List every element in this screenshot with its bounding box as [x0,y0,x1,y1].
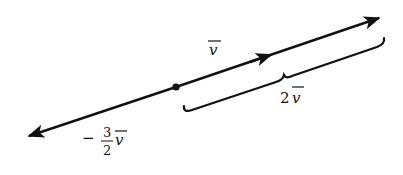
svg-text:2: 2 [280,89,290,107]
origin-point [172,83,179,90]
label-neg-three-halves-v: − 3 2 v [82,125,127,158]
svg-text:v: v [209,41,218,59]
label-v: v [208,41,221,59]
label-2v: 2 v [280,87,304,107]
v-arrowhead [250,55,271,62]
svg-text:−: − [82,129,95,147]
svg-text:2: 2 [103,143,111,158]
svg-text:3: 3 [103,125,111,140]
svg-text:v: v [115,131,124,149]
vector-line-positive [176,18,379,87]
svg-text:v: v [292,89,301,107]
vector-diagram: v 2 v − 3 2 v [0,0,403,175]
